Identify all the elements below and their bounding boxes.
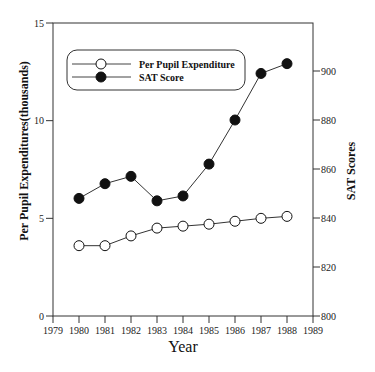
- legend: Per Pupil Expenditure SAT Score: [67, 50, 245, 90]
- y-axis-title: Per Pupil Expenditures(thousands): [17, 61, 31, 241]
- x-tick-label: 1982: [121, 325, 141, 336]
- x-tick-label: 1980: [69, 325, 89, 336]
- open-circle-marker-icon: [282, 211, 292, 221]
- open-circle-marker-icon: [178, 221, 188, 231]
- y2-tick-label: 860: [321, 164, 336, 175]
- filled-circle-marker-icon: [178, 191, 188, 201]
- x-tick-label: 1985: [199, 325, 219, 336]
- open-circle-marker-icon: [96, 59, 106, 69]
- y-tick-label: 0: [39, 311, 44, 322]
- filled-circle-marker-icon: [74, 193, 84, 203]
- y-axis-left: 051015: [34, 18, 53, 322]
- filled-circle-marker-icon: [100, 179, 110, 189]
- x-axis: 1979198019811982198319841985198619871988…: [43, 316, 323, 336]
- filled-circle-marker-icon: [96, 72, 106, 82]
- x-tick-label: 1984: [173, 325, 193, 336]
- dual-axis-line-chart: 1979198019811982198319841985198619871988…: [0, 0, 375, 372]
- open-circle-marker-icon: [74, 241, 84, 251]
- x-tick-label: 1988: [277, 325, 297, 336]
- filled-circle-marker-icon: [126, 171, 136, 181]
- open-circle-marker-icon: [256, 213, 266, 223]
- open-circle-marker-icon: [100, 241, 110, 251]
- filled-circle-marker-icon: [282, 59, 292, 69]
- x-tick-label: 1987: [251, 325, 271, 336]
- filled-circle-marker-icon: [152, 196, 162, 206]
- y2-tick-label: 800: [321, 311, 336, 322]
- legend-label-sat: SAT Score: [139, 72, 184, 83]
- legend-box: [67, 50, 245, 90]
- y2-tick-label: 880: [321, 115, 336, 126]
- x-tick-label: 1986: [225, 325, 245, 336]
- y2-tick-label: 820: [321, 262, 336, 273]
- filled-circle-marker-icon: [230, 115, 240, 125]
- open-circle-marker-icon: [230, 216, 240, 226]
- filled-circle-marker-icon: [204, 159, 214, 169]
- open-circle-marker-icon: [126, 231, 136, 241]
- y-tick-label: 15: [34, 18, 44, 29]
- y-tick-label: 10: [34, 115, 44, 126]
- y2-axis-title: SAT Scores: [344, 142, 358, 201]
- filled-circle-marker-icon: [256, 68, 266, 78]
- x-axis-title: Year: [168, 338, 198, 355]
- open-circle-marker-icon: [152, 223, 162, 233]
- y-tick-label: 5: [39, 213, 44, 224]
- y-axis-right: 800820840860880900: [313, 66, 336, 322]
- x-tick-label: 1983: [147, 325, 167, 336]
- x-tick-label: 1979: [43, 325, 63, 336]
- open-circle-marker-icon: [204, 219, 214, 229]
- y2-tick-label: 840: [321, 213, 336, 224]
- x-tick-label: 1981: [95, 325, 115, 336]
- legend-label-expenditure: Per Pupil Expenditure: [139, 59, 235, 70]
- x-tick-label: 1989: [303, 325, 323, 336]
- y2-tick-label: 900: [321, 66, 336, 77]
